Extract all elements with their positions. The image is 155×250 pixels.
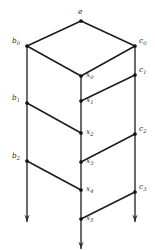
vertex-label-c2: c2 (139, 125, 146, 132)
vertex-dot-x0 (79, 74, 83, 78)
vertex-dot-c3 (133, 190, 137, 194)
vertex-label-x1: x1 (86, 96, 93, 103)
edge-e-c0 (81, 21, 135, 46)
vertex-label-c0: c0 (139, 37, 146, 44)
vertex-label-subscript-c2: 2 (143, 128, 146, 134)
vertex-label-subscript-c0: 0 (143, 40, 146, 46)
vertex-label-b2: b2 (12, 152, 20, 159)
vertex-label-subscript-c3: 3 (143, 186, 146, 192)
vertex-dot-x3 (79, 160, 83, 164)
vertex-label-c3: c3 (139, 183, 146, 190)
vertex-dot-e (79, 19, 83, 23)
vertex-dot-x5 (79, 217, 83, 221)
vertex-dot-x4 (79, 188, 83, 192)
vertex-label-subscript-b0: 0 (17, 40, 20, 46)
vertex-dot-c1 (133, 73, 137, 77)
edge-b1-x2 (27, 103, 81, 133)
vertex-label-x5: x5 (86, 214, 93, 221)
vertex-dot-x2 (79, 131, 83, 135)
vertex-label-subscript-b2: 2 (17, 155, 20, 161)
vertex-label-subscript-x2: 2 (90, 131, 93, 137)
vertex-label-b0: b0 (12, 37, 20, 44)
vertex-label-x2: x2 (86, 128, 93, 135)
vertex-label-subscript-b1: 1 (17, 97, 20, 103)
vertex-dot-c2 (133, 132, 137, 136)
diagram-svg (0, 0, 155, 250)
vertex-label-c1: c1 (139, 66, 146, 73)
vertex-label-subscript-x0: 0 (90, 74, 93, 80)
vertex-dot-b2 (25, 159, 29, 163)
diagram-canvas: eb0b1b2c0c1c2c3x0x1x2x3x4x5 (0, 0, 155, 250)
vertex-label-subscript-c1: 1 (143, 69, 146, 75)
vertex-dot-b0 (25, 44, 29, 48)
vertex-dot-c0 (133, 44, 137, 48)
vertex-label-x3: x3 (86, 157, 93, 164)
edge-b0-x0 (27, 46, 81, 76)
vertex-label-e: e (78, 8, 82, 15)
vertex-label-x4: x4 (86, 185, 93, 192)
vertex-label-subscript-x1: 1 (90, 99, 93, 105)
vertex-dot-x1 (79, 99, 83, 103)
vertex-label-b1: b1 (12, 94, 20, 101)
vertex-label-x0: x0 (86, 71, 93, 78)
vertex-label-subscript-x3: 3 (90, 160, 93, 166)
vertex-label-subscript-x5: 5 (90, 217, 93, 223)
edge-b2-x4 (27, 161, 81, 190)
edge-e-b0 (27, 21, 81, 46)
vertex-label-base-e: e (78, 7, 82, 16)
vertex-label-subscript-x4: 4 (90, 188, 93, 194)
vertex-dot-b1 (25, 101, 29, 105)
